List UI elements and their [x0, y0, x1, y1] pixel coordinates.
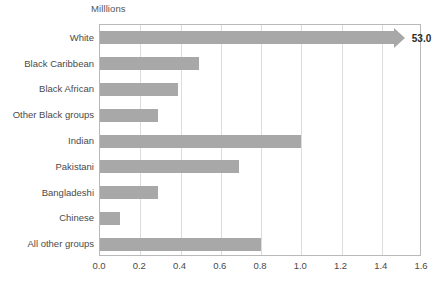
category-label: Black Caribbean	[0, 57, 94, 68]
plot-area: 53.0	[99, 24, 421, 256]
bar-row	[100, 183, 420, 203]
category-label: White	[0, 31, 94, 42]
bar	[100, 83, 178, 96]
x-tick-label: 0.8	[253, 260, 266, 271]
x-tick-label: 0.2	[133, 260, 146, 271]
bar-row	[100, 79, 420, 99]
category-label: Bangladeshi	[0, 186, 94, 197]
category-label: Pakistani	[0, 160, 94, 171]
bar-row	[100, 208, 420, 228]
value-axis-labels: 0.00.20.40.60.81.01.21.41.6	[99, 260, 421, 276]
bars-layer: 53.0	[100, 25, 420, 255]
category-label: Indian	[0, 135, 94, 146]
category-label: Black African	[0, 83, 94, 94]
bar-value-label: 53.0	[412, 32, 431, 43]
category-axis-labels: WhiteBlack CaribbeanBlack AfricanOther B…	[0, 24, 94, 256]
x-tick-label: 1.0	[294, 260, 307, 271]
bar-row	[100, 157, 420, 177]
x-tick-label: 0.4	[173, 260, 186, 271]
x-tick-label: 0.6	[213, 260, 226, 271]
bar	[100, 238, 261, 251]
bar-truncation-arrow-icon	[394, 28, 405, 48]
bar	[100, 212, 120, 225]
category-label: All other groups	[0, 238, 94, 249]
bar-row: 53.0	[100, 28, 420, 48]
bar	[100, 186, 158, 199]
category-label: Other Black groups	[0, 109, 94, 120]
bar	[100, 135, 301, 148]
bar	[100, 31, 394, 44]
bar-chart: Milllions WhiteBlack CaribbeanBlack Afri…	[0, 0, 440, 284]
bar-row	[100, 234, 420, 254]
x-tick-label: 1.6	[414, 260, 427, 271]
bar-row	[100, 131, 420, 151]
bar-row	[100, 105, 420, 125]
x-tick-label: 0.0	[92, 260, 105, 271]
x-tick-label: 1.2	[334, 260, 347, 271]
bar	[100, 160, 239, 173]
bar	[100, 109, 158, 122]
chart-title: Milllions	[91, 3, 126, 14]
bar	[100, 57, 199, 70]
category-label: Chinese	[0, 212, 94, 223]
bar-row	[100, 54, 420, 74]
x-tick-label: 1.4	[374, 260, 387, 271]
